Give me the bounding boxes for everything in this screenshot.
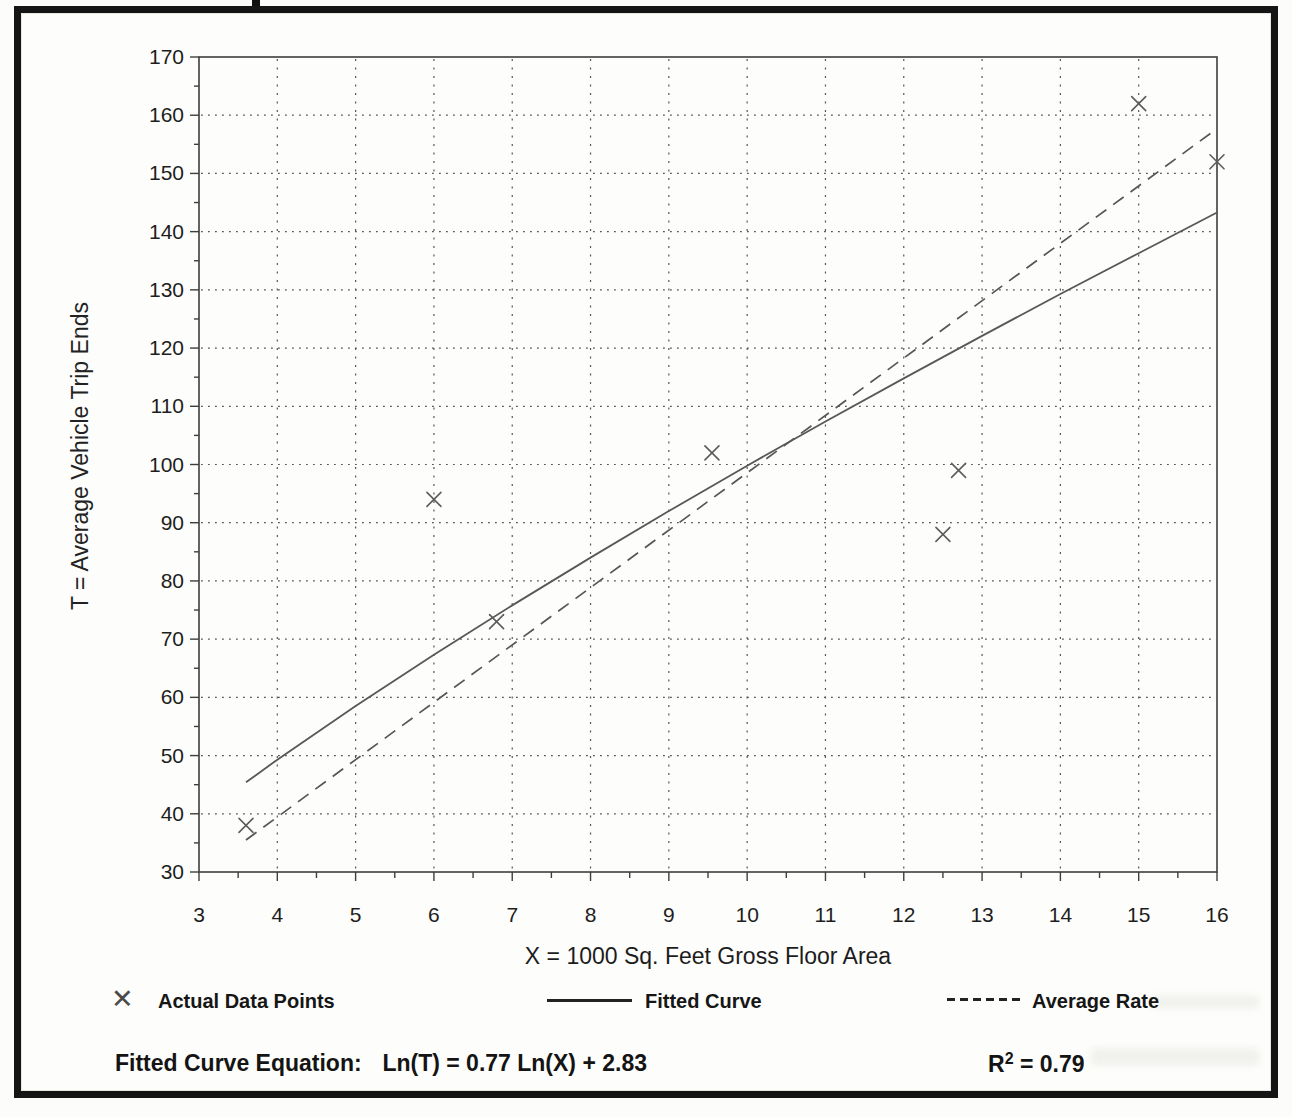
y-tick-label: 120 [149,336,184,359]
y-tick-label: 100 [149,453,184,476]
equation-label: Fitted Curve Equation: [115,1050,362,1076]
x-tick-label: 5 [350,903,362,926]
y-tick-label: 160 [149,103,184,126]
y-tick-label: 140 [149,220,184,243]
x-tick-label: 13 [970,903,993,926]
y-tick-label: 30 [161,860,184,883]
y-tick-label: 150 [149,161,184,184]
average-rate-line [246,129,1217,840]
equation-value: Ln(T) = 0.77 Ln(X) + 2.83 [382,1050,647,1076]
y-tick-label: 60 [161,685,184,708]
x-tick-label: 4 [271,903,283,926]
x-tick-label: 3 [193,903,205,926]
legend-average-rate: Average Rate [1032,990,1159,1013]
r-squared-value: R2 = 0.79 [988,1050,1085,1078]
y-tick-label: 40 [161,802,184,825]
y-tick-label: 170 [149,45,184,68]
plot-frame [199,57,1217,872]
dashed-line-icon [947,998,1021,1001]
x-tick-label: 8 [585,903,597,926]
x-tick-label: 10 [735,903,758,926]
y-tick-label: 130 [149,278,184,301]
x-tick-label: 15 [1127,903,1150,926]
gridlines [201,59,1215,870]
data-point-x-marker [705,446,719,460]
legend-actual-data-points: Actual Data Points [158,990,335,1013]
data-point-x-marker [952,463,966,477]
y-axis-title: T = Average Vehicle Trip Ends [67,302,94,610]
x-tick-label: 12 [892,903,915,926]
y-tick-label: 80 [161,569,184,592]
y-tick-label: 50 [161,744,184,767]
y-tick-label: 90 [161,511,184,534]
data-point-x-marker [1132,97,1146,111]
data-point-x-marker [427,492,441,506]
x-marker-icon: ✕ [111,983,134,1015]
y-tick-label: 70 [161,627,184,650]
solid-line-icon [547,999,632,1002]
legend-fitted-curve: Fitted Curve [645,990,762,1013]
x-tick-label: 7 [506,903,518,926]
fitted-curve-equation: Fitted Curve Equation: Ln(T) = 0.77 Ln(X… [115,1050,647,1077]
tick-labels: 3040506070809010011012013014015016017034… [149,45,1229,926]
y-tick-label: 110 [151,394,184,417]
data-point-x-marker [936,527,950,541]
x-tick-label: 14 [1049,903,1073,926]
x-tick-label: 6 [428,903,440,926]
x-tick-label: 16 [1205,903,1228,926]
x-tick-label: 11 [815,903,837,926]
x-axis-title: X = 1000 Sq. Feet Gross Floor Area [525,943,891,970]
x-tick-label: 9 [663,903,675,926]
data-point-x-marker [239,818,253,832]
data-point-x-marker [490,615,504,629]
axis-ticks [190,57,1217,881]
